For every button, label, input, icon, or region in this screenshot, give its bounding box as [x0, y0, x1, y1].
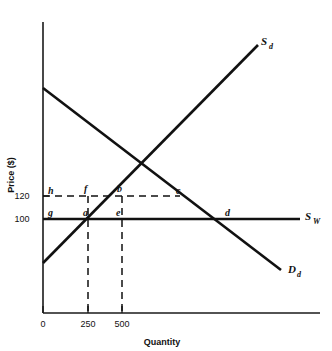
point-label-h: h — [48, 185, 54, 196]
point-label-e: e — [116, 207, 121, 218]
y-axis-title: Price ($) — [6, 157, 16, 193]
point-label-d: d — [225, 207, 231, 218]
point-label-g: g — [47, 207, 53, 218]
x-axis-title: Quantity — [144, 337, 181, 347]
domestic-demand-label-sub: d — [297, 270, 302, 279]
world-supply-label: S — [305, 210, 311, 222]
x-tick-label-0: 0 — [40, 319, 45, 329]
x-tick-label-250: 250 — [80, 319, 95, 329]
x-tick-label-500: 500 — [114, 319, 129, 329]
point-label-a: a — [83, 207, 88, 218]
domestic-demand-label: D — [287, 263, 296, 275]
y-tick-label-100: 100 — [14, 214, 29, 224]
domestic-demand-curve — [43, 88, 281, 270]
world-supply-label-sub: W — [313, 217, 321, 226]
chart-canvas: S d D d S W 100 120 0 250 500 Price ($) … — [0, 0, 332, 351]
point-label-c: c — [176, 185, 181, 196]
point-label-f: f — [84, 183, 89, 194]
domestic-supply-label-sub: d — [269, 42, 274, 51]
domestic-supply-label: S — [261, 35, 267, 47]
supply-demand-figure: S d D d S W 100 120 0 250 500 Price ($) … — [0, 0, 332, 351]
y-tick-label-120: 120 — [14, 191, 29, 201]
point-label-b: b — [117, 183, 122, 194]
domestic-supply-curve — [43, 45, 258, 263]
